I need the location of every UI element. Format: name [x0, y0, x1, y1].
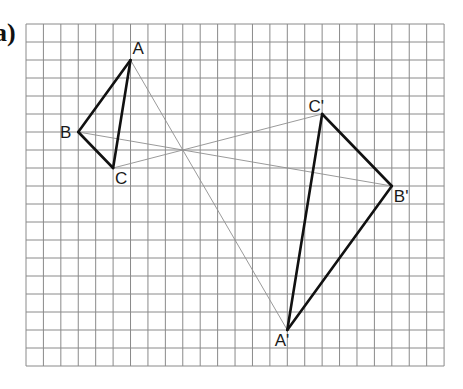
enlargement-diagram: ABCA'B'C' — [0, 0, 463, 389]
vertex-label: A' — [275, 331, 290, 350]
vertex-label: C — [115, 169, 127, 188]
vertex-label: A — [133, 39, 145, 58]
construction-line-a — [131, 60, 288, 330]
vertex-label: C' — [309, 97, 325, 116]
grid-paper — [26, 24, 444, 366]
vertex-label: B — [60, 123, 71, 142]
vertex-label: B' — [394, 187, 409, 206]
